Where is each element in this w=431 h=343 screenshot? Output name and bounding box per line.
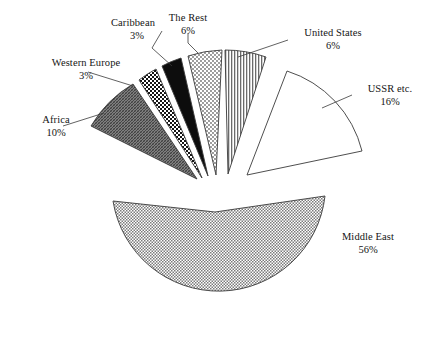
- pie-chart-svg: Caribbean 3% The Rest 6% Western Europe …: [0, 0, 431, 343]
- label-ussr-name: USSR etc.: [368, 83, 413, 94]
- label-western-europe-pct: 3%: [79, 70, 93, 81]
- pie-chart-figure: Caribbean 3% The Rest 6% Western Europe …: [0, 0, 431, 343]
- label-middle-east-pct: 56%: [358, 244, 378, 255]
- label-africa-pct: 10%: [46, 127, 66, 138]
- label-caribbean-pct: 3%: [130, 30, 144, 41]
- label-western-europe-name: Western Europe: [52, 57, 121, 68]
- label-united-states-pct: 6%: [326, 40, 340, 51]
- label-middle-east-name: Middle East: [342, 231, 394, 242]
- label-ussr-pct: 16%: [380, 96, 400, 107]
- label-africa-name: Africa: [42, 114, 70, 125]
- label-the-rest-pct: 6%: [181, 25, 195, 36]
- label-caribbean-name: Caribbean: [111, 17, 156, 28]
- label-the-rest-name: The Rest: [169, 12, 207, 23]
- label-united-states-name: United States: [304, 27, 362, 38]
